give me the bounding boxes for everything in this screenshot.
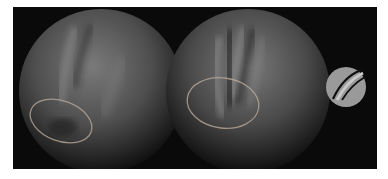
spheres-illustration bbox=[13, 7, 377, 169]
render-panel bbox=[13, 7, 377, 169]
sphere-left bbox=[19, 9, 183, 169]
sphere-middle bbox=[166, 9, 330, 169]
small-sphere-icon bbox=[326, 67, 366, 107]
